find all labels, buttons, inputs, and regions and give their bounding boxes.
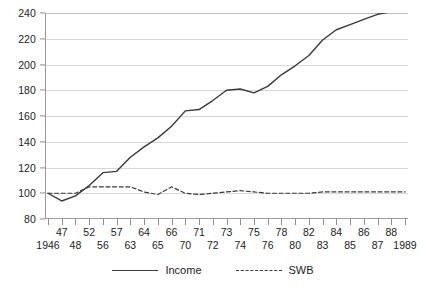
y-tick-label: 140 — [18, 136, 36, 148]
dashed-line-icon — [236, 266, 282, 275]
x-tick-label: 76 — [262, 239, 274, 251]
solid-line-icon — [112, 266, 158, 275]
x-tick-label: 66 — [166, 226, 178, 238]
x-tick-mark — [75, 219, 76, 225]
x-tick-label: 72 — [207, 239, 219, 251]
x-tick-label: 57 — [111, 226, 123, 238]
x-tick-mark — [240, 219, 241, 225]
x-tick-label: 64 — [138, 226, 150, 238]
x-tick-label: 86 — [358, 226, 370, 238]
line-chart-figure: 80100120140160180200220240 1946474852565… — [0, 0, 426, 291]
x-tick-mark — [199, 219, 200, 225]
x-tick-mark — [144, 219, 145, 225]
x-tick-mark — [213, 219, 214, 225]
x-tick-mark — [268, 219, 269, 225]
x-tick-mark — [391, 219, 392, 225]
y-tick-label: 200 — [18, 59, 36, 71]
x-tick-label: 75 — [248, 226, 260, 238]
x-tick-mark — [336, 219, 337, 225]
x-tick-label: 63 — [125, 239, 137, 251]
x-tick-label: 83 — [317, 239, 329, 251]
x-tick-mark — [254, 219, 255, 225]
x-tick-mark — [364, 219, 365, 225]
x-tick-label: 80 — [289, 239, 301, 251]
x-axis: 1946474852565763646566707172737475767880… — [45, 219, 408, 257]
x-tick-mark — [172, 219, 173, 225]
y-tick-label: 80 — [24, 213, 36, 225]
y-axis: 80100120140160180200220240 — [0, 0, 45, 219]
x-tick-label: 85 — [344, 239, 356, 251]
x-tick-mark — [130, 219, 131, 225]
x-tick-label: 52 — [83, 226, 95, 238]
x-tick-mark — [117, 219, 118, 225]
x-tick-label: 48 — [70, 239, 82, 251]
x-tick-mark — [281, 219, 282, 225]
legend-entry-swb: SWB — [236, 264, 314, 276]
legend-label-swb: SWB — [289, 264, 314, 276]
x-tick-label: 74 — [234, 239, 246, 251]
series-line-swb — [48, 187, 405, 195]
x-tick-label: 73 — [221, 226, 233, 238]
x-tick-label: 65 — [152, 239, 164, 251]
x-tick-mark — [350, 219, 351, 225]
x-tick-label: 1946 — [36, 239, 59, 251]
x-tick-label: 88 — [385, 226, 397, 238]
y-tick-label: 100 — [18, 187, 36, 199]
series-layer — [45, 13, 408, 219]
x-tick-mark — [227, 219, 228, 225]
chart-legend: Income SWB — [0, 264, 426, 276]
x-tick-label: 47 — [56, 226, 68, 238]
series-line-income — [48, 13, 405, 201]
legend-label-income: Income — [165, 264, 201, 276]
y-tick-label: 120 — [18, 162, 36, 174]
x-tick-mark — [185, 219, 186, 225]
y-tick-label: 220 — [18, 33, 36, 45]
x-tick-label: 82 — [303, 226, 315, 238]
x-tick-mark — [62, 219, 63, 225]
x-tick-label: 56 — [97, 239, 109, 251]
x-tick-label: 71 — [193, 226, 205, 238]
x-tick-mark — [158, 219, 159, 225]
x-tick-mark — [405, 219, 406, 225]
y-tick-label: 180 — [18, 84, 36, 96]
x-tick-mark — [323, 219, 324, 225]
x-tick-label: 78 — [276, 226, 288, 238]
x-tick-label: 70 — [179, 239, 191, 251]
x-tick-mark — [295, 219, 296, 225]
x-tick-label: 84 — [331, 226, 343, 238]
x-tick-mark — [48, 219, 49, 225]
x-tick-label: 87 — [372, 239, 384, 251]
y-tick-label: 240 — [18, 7, 36, 19]
y-tick-label: 160 — [18, 110, 36, 122]
x-tick-label: 1989 — [393, 239, 416, 251]
x-tick-mark — [309, 219, 310, 225]
legend-entry-income: Income — [112, 264, 201, 276]
x-tick-mark — [89, 219, 90, 225]
x-tick-mark — [378, 219, 379, 225]
x-tick-mark — [103, 219, 104, 225]
